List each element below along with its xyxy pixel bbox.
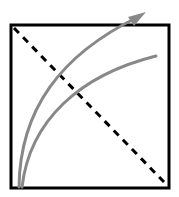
lower-curve: [22, 56, 156, 187]
upper-curve: [19, 17, 138, 187]
dashed-diagonal: [14, 28, 164, 182]
diagram-canvas: [0, 0, 179, 197]
